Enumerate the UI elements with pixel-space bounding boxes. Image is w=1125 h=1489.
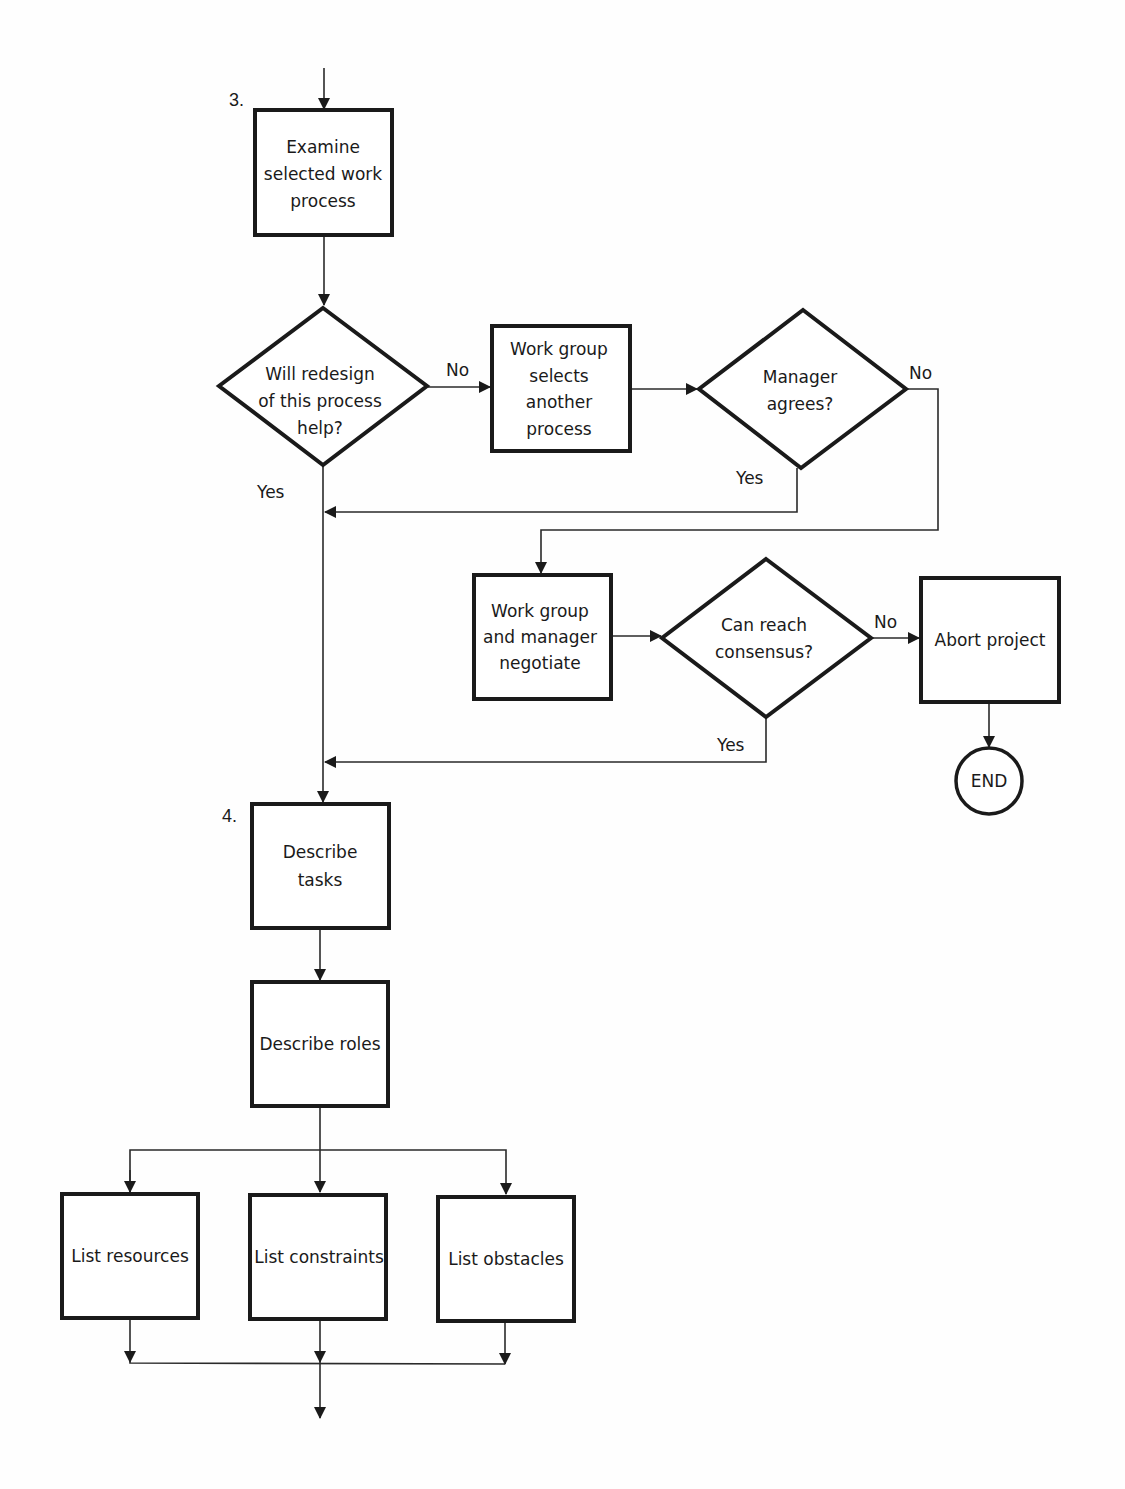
- select-another-process-box: Work group selects another process: [492, 326, 630, 451]
- svg-text:process: process: [290, 191, 355, 211]
- svg-text:Will redesign: Will redesign: [265, 364, 374, 384]
- svg-text:List resources: List resources: [71, 1246, 189, 1266]
- svg-text:and manager: and manager: [483, 627, 597, 647]
- svg-text:tasks: tasks: [298, 870, 343, 890]
- svg-text:selected work: selected work: [264, 164, 382, 184]
- svg-text:END: END: [971, 771, 1008, 791]
- step-number-4: 4.: [222, 806, 237, 826]
- svg-text:Examine: Examine: [286, 137, 360, 157]
- examine-process-box: Examine selected work process: [255, 110, 392, 235]
- svg-text:Abort project: Abort project: [935, 630, 1046, 650]
- list-obstacles-box: List obstacles: [438, 1197, 574, 1321]
- svg-text:negotiate: negotiate: [499, 653, 580, 673]
- redesign-no-label: No: [446, 360, 469, 380]
- svg-text:Manager: Manager: [763, 367, 838, 387]
- consensus-yes-label: Yes: [716, 735, 745, 755]
- flowchart: 3. Examine selected work process Will re…: [0, 0, 1125, 1489]
- svg-text:of this process: of this process: [258, 391, 382, 411]
- svg-text:consensus?: consensus?: [715, 642, 813, 662]
- manager-no-label: No: [909, 363, 932, 383]
- svg-text:Describe roles: Describe roles: [259, 1034, 380, 1054]
- redesign-yes-label: Yes: [256, 482, 285, 502]
- describe-roles-box: Describe roles: [252, 982, 388, 1106]
- end-terminal: END: [956, 748, 1022, 814]
- list-constraints-box: List constraints: [250, 1195, 386, 1319]
- svg-text:agrees?: agrees?: [767, 394, 834, 414]
- step-number-3: 3.: [229, 90, 244, 110]
- svg-text:process: process: [526, 419, 591, 439]
- manager-agrees-diamond: Manager agrees?: [699, 310, 906, 468]
- consensus-diamond: Can reach consensus?: [662, 559, 871, 717]
- svg-text:selects: selects: [529, 366, 589, 386]
- consensus-no-label: No: [874, 612, 897, 632]
- negotiate-box: Work group and manager negotiate: [474, 575, 611, 699]
- svg-text:List constraints: List constraints: [254, 1247, 384, 1267]
- list-resources-box: List resources: [62, 1194, 198, 1318]
- svg-text:Work group: Work group: [491, 601, 589, 621]
- svg-text:List obstacles: List obstacles: [448, 1249, 564, 1269]
- manager-yes-label: Yes: [735, 468, 764, 488]
- svg-text:Describe: Describe: [283, 842, 358, 862]
- svg-text:Work group: Work group: [510, 339, 608, 359]
- describe-tasks-box: Describe tasks: [252, 804, 389, 928]
- redesign-decision-diamond: Will redesign of this process help?: [219, 308, 427, 465]
- svg-text:another: another: [526, 392, 592, 412]
- svg-text:help?: help?: [297, 418, 343, 438]
- svg-text:Can reach: Can reach: [721, 615, 807, 635]
- abort-project-box: Abort project: [921, 578, 1059, 702]
